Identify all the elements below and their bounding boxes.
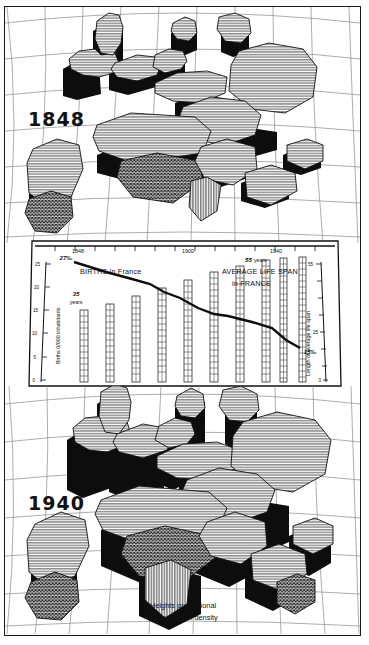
figure-frame (4, 6, 361, 636)
infographic-page: 1848 1848 1900 1940 (0, 0, 369, 645)
